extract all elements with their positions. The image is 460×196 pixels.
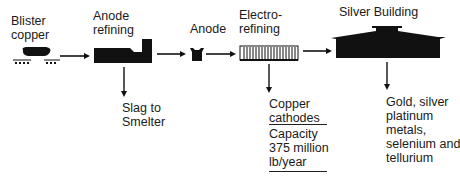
anode-refining-furnace-icon bbox=[94, 39, 152, 63]
anode-icon bbox=[190, 48, 204, 61]
output-slag-to-smelter: Slag to Smelter bbox=[122, 101, 165, 129]
arrow-down-icon bbox=[121, 67, 127, 97]
blister-copper-icon bbox=[13, 47, 60, 64]
label-line: 375 million bbox=[269, 141, 329, 155]
label-line: Copper bbox=[269, 97, 320, 111]
label-line: metals, bbox=[386, 123, 460, 137]
arrow-right-icon bbox=[157, 51, 186, 57]
label-line: lb/year bbox=[269, 155, 329, 169]
label-line: Slag to bbox=[122, 101, 165, 115]
electrorefining-tank-icon bbox=[240, 46, 298, 60]
label-line: tellurium bbox=[386, 151, 460, 165]
arrow-right-icon bbox=[206, 51, 236, 57]
label-line: Gold, silver bbox=[386, 95, 460, 109]
divider bbox=[269, 171, 327, 172]
silver-building-icon bbox=[331, 26, 446, 58]
output-copper-cathodes: Copper cathodes bbox=[269, 97, 320, 125]
divider bbox=[269, 124, 327, 125]
arrow-down-icon bbox=[384, 62, 390, 90]
label-line: platinum bbox=[386, 109, 460, 123]
output-precious-metals: Gold, silver platinum metals, selenium a… bbox=[386, 95, 460, 165]
arrow-down-icon bbox=[266, 64, 272, 93]
label-line: Smelter bbox=[122, 115, 165, 129]
label-line: cathodes bbox=[269, 111, 320, 125]
label-line: selenium and bbox=[386, 137, 460, 151]
arrow-right-icon bbox=[60, 53, 90, 59]
label-line: Capacity bbox=[269, 127, 329, 141]
capacity-note: Capacity 375 million lb/year bbox=[269, 127, 329, 169]
arrow-right-icon bbox=[303, 48, 332, 54]
